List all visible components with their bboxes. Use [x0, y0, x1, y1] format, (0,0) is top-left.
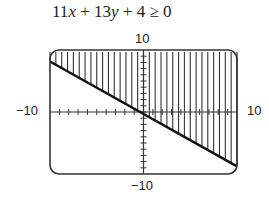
- graph-window: [0, 0, 269, 198]
- y-min-label: −10: [131, 178, 153, 193]
- x-min-label: −10: [16, 103, 38, 118]
- y-max-label: 10: [135, 31, 149, 46]
- x-max-label: 10: [247, 103, 261, 118]
